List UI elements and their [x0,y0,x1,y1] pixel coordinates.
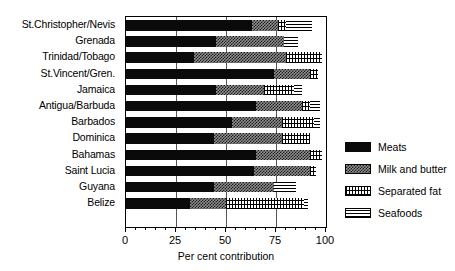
bar-segment [278,20,286,31]
category-axis-labels: St.Christopher/NevisGrenadaTrinidad/Toba… [0,16,120,210]
bar-segment [274,182,296,193]
x-tick-label: 0 [105,233,145,247]
bar-segment [126,36,216,47]
stacked-bar [126,182,296,193]
x-tick-minor [135,227,136,230]
legend-label: Separated fat [378,185,441,197]
bar-row [126,195,326,211]
bar-row [126,147,326,163]
x-axis-tick-labels: 0255075100 [0,233,455,247]
x-tick-minor [295,227,296,230]
bar-segment [126,52,194,63]
stacked-bar [126,52,322,63]
bar-segment [310,101,320,112]
x-axis-title: Per cent contribution [125,250,327,262]
x-tick-major [325,227,326,232]
x-tick-minor [185,227,186,230]
legend-swatch [345,186,371,196]
bar-segment [126,69,274,80]
x-tick-minor [315,227,316,230]
bar-segment [314,117,320,128]
stacked-bar [126,69,318,80]
category-label: Grenada [0,32,120,48]
bar-segment [256,101,302,112]
category-label: Guyana [0,178,120,194]
x-tick-minor [215,227,216,230]
bar-row [126,98,326,114]
x-tick-major [275,227,276,232]
x-tick-label: 75 [255,233,295,247]
x-tick-major [125,227,126,232]
x-tick-label: 100 [305,233,345,247]
x-tick-label: 25 [155,233,195,247]
legend-item: Meats [345,136,447,158]
category-label: Bahamas [0,146,120,162]
bar-segment [264,85,294,96]
category-label: Dominica [0,129,120,145]
stacked-bar [126,150,322,161]
bar-segment [252,20,278,31]
legend-item: Separated fat [345,180,447,202]
bar-segment [310,69,318,80]
bar-row [126,66,326,82]
bar-segment [284,36,298,47]
stacked-bar [126,101,320,112]
x-tick-minor [255,227,256,230]
category-label: Belize [0,194,120,210]
x-tick-minor [195,227,196,230]
legend-label: Milk and butter [378,163,447,175]
x-tick-major [175,227,176,232]
chart-container: St.Christopher/NevisGrenadaTrinidad/Toba… [0,0,455,271]
legend: MeatsMilk and butterSeparated fatSeafood… [345,136,447,224]
x-tick-minor [265,227,266,230]
x-tick-minor [305,227,306,230]
bar-rows [126,17,326,227]
bar-segment [310,150,322,161]
category-label: Saint Lucia [0,162,120,178]
x-tick-label: 50 [205,233,245,247]
bar-segment [190,198,226,209]
legend-swatch [345,142,371,152]
stacked-bar [126,85,302,96]
bar-segment [286,20,312,31]
bar-segment [126,150,256,161]
bar-segment [254,166,310,177]
bar-segment [126,166,254,177]
category-label: Trinidad/Tobago [0,48,120,64]
bar-row [126,82,326,98]
x-tick-minor [235,227,236,230]
bar-segment [216,36,284,47]
bar-segment [226,198,304,209]
x-tick-minor [245,227,246,230]
bar-segment [302,101,310,112]
bar-segment [232,117,282,128]
bar-segment [282,133,310,144]
bar-row [126,17,326,33]
stacked-bar [126,166,316,177]
bar-segment [310,166,316,177]
bar-segment [126,198,190,209]
category-label: St.Vincent/Gren. [0,65,120,81]
bar-row [126,49,326,65]
legend-label: Seafoods [378,207,422,219]
bar-segment [294,85,302,96]
x-tick-minor [145,227,146,230]
category-label: Antigua/Barbuda [0,97,120,113]
bar-row [126,114,326,130]
x-tick-minor [165,227,166,230]
x-tick-major [225,227,226,232]
bar-row [126,130,326,146]
stacked-bar [126,20,312,31]
bar-segment [274,69,310,80]
category-label: St.Christopher/Nevis [0,16,120,32]
bar-segment [216,85,264,96]
bar-segment [194,52,286,63]
bar-segment [126,133,214,144]
bar-segment [214,133,282,144]
legend-swatch [345,208,371,218]
legend-swatch [345,164,371,174]
bar-segment [304,198,308,209]
bar-row [126,33,326,49]
stacked-bar [126,36,298,47]
bar-segment [126,101,256,112]
